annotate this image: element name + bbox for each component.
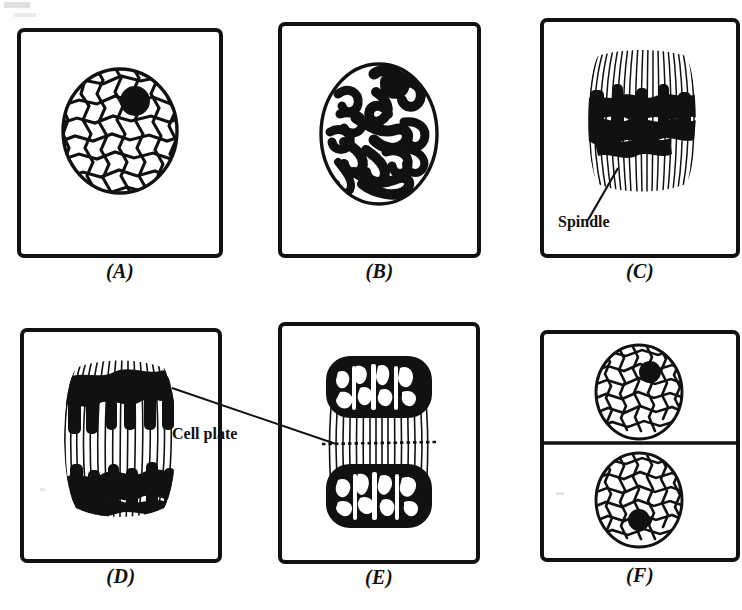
panel-e-caption: (E)	[278, 566, 480, 589]
panel-a-artwork	[17, 28, 223, 258]
panel-f-nucleolus-bottom	[628, 509, 650, 531]
panel-d-caption: (D)	[20, 565, 222, 588]
panel-a-caption: (A)	[17, 260, 223, 283]
panel-f-artwork	[540, 330, 740, 562]
spindle-label: Spindle	[558, 213, 610, 231]
panel-b-artwork	[278, 22, 481, 258]
panel-b-caption: (B)	[278, 260, 481, 283]
panel-c: Spindle (C)	[540, 18, 740, 258]
panel-c-caption: (C)	[540, 260, 740, 283]
panel-e: Cell plate (E)	[278, 322, 480, 564]
scan-artifact-panel-f-left	[556, 492, 564, 495]
scan-artifact-panel-d-left	[40, 488, 45, 491]
scan-artifact-top-left-2	[14, 13, 36, 17]
panel-b: (B)	[278, 22, 481, 258]
panel-a-nucleolus	[120, 86, 150, 116]
panel-f-nucleolus-top	[639, 361, 661, 383]
panel-a: (A)	[17, 28, 223, 258]
panel-f: (F)	[540, 330, 740, 562]
panel-f-caption: (F)	[540, 564, 740, 587]
cell-plate-label: Cell plate	[172, 425, 237, 443]
panel-e-cell-plate-leader	[164, 360, 344, 460]
mitosis-figure: (A)	[0, 0, 742, 610]
panel-c-spindle-fibers	[580, 43, 706, 203]
scan-artifact-top-left	[4, 2, 30, 8]
